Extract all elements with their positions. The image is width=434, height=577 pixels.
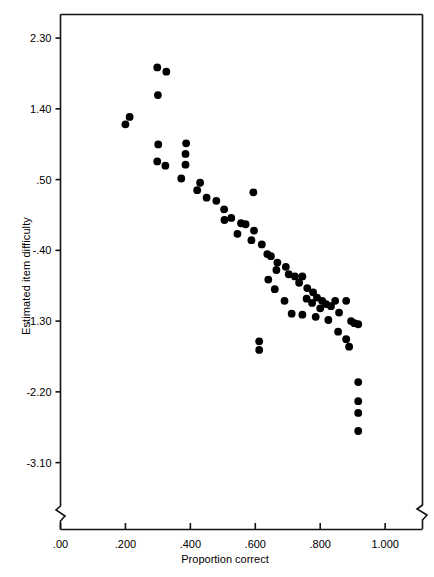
data-point: [354, 397, 362, 405]
x-tick-label: 1.000: [355, 538, 415, 550]
y-tick-label: .50: [0, 174, 52, 186]
data-point: [345, 343, 353, 351]
data-point: [161, 162, 169, 170]
data-point: [316, 304, 324, 312]
scatter-plot-figure: 2.301.40.50-.40-1.30-2.20-3.10 .00.200.4…: [0, 0, 434, 577]
data-points-group: [122, 64, 363, 435]
data-point: [267, 252, 275, 260]
data-point: [153, 64, 161, 72]
data-point: [342, 335, 350, 343]
x-axis-ticks: [61, 523, 386, 530]
data-point: [255, 346, 263, 354]
data-point: [273, 266, 281, 274]
data-point: [242, 220, 250, 228]
data-point: [203, 194, 211, 202]
data-point: [249, 188, 257, 196]
y-tick-label: 2.30: [0, 32, 52, 44]
data-point: [162, 68, 170, 76]
x-tick-label: .600: [225, 538, 285, 550]
data-point: [153, 158, 161, 166]
data-point: [255, 337, 263, 345]
data-point: [177, 175, 185, 183]
x-axis-break-right-icon: [417, 498, 427, 529]
data-point: [288, 310, 296, 318]
x-tick-label: .800: [290, 538, 350, 550]
x-tick-label: .400: [160, 538, 220, 550]
y-tick-label: -3.10: [0, 457, 52, 469]
data-point: [182, 161, 190, 169]
data-point: [282, 263, 290, 271]
plot-canvas: [0, 0, 434, 577]
data-point: [250, 227, 258, 235]
data-point: [154, 140, 162, 148]
data-point: [354, 320, 362, 328]
data-point: [258, 241, 266, 249]
data-point: [212, 197, 220, 205]
data-point: [331, 297, 339, 305]
data-point: [342, 297, 350, 305]
y-tick-label: 1.40: [0, 103, 52, 115]
x-tick-label: .200: [95, 538, 155, 550]
data-point: [354, 378, 362, 386]
x-axis-title: Proportion correct: [60, 553, 390, 565]
data-point: [221, 216, 229, 224]
data-point: [122, 120, 130, 128]
y-tick-label: -2.20: [0, 386, 52, 398]
data-point: [312, 313, 320, 321]
data-point: [154, 91, 162, 99]
y-axis-title: Estimated item difficulty: [20, 186, 32, 366]
x-tick-label: .00: [31, 538, 91, 550]
data-point: [273, 259, 281, 267]
data-point: [334, 328, 342, 336]
data-point: [324, 316, 332, 324]
data-point: [182, 150, 190, 158]
data-point: [281, 297, 289, 305]
data-point: [182, 139, 190, 147]
data-point: [234, 230, 242, 238]
data-point: [298, 311, 306, 319]
data-point: [354, 409, 362, 417]
data-point: [298, 272, 306, 280]
plot-frame: [61, 15, 423, 499]
data-point: [248, 236, 256, 244]
data-point: [271, 285, 279, 293]
data-point: [335, 309, 343, 317]
data-point: [126, 113, 134, 121]
data-point: [220, 205, 228, 213]
data-point: [291, 272, 299, 280]
data-point: [264, 276, 272, 284]
data-point: [193, 186, 201, 194]
data-point: [354, 427, 362, 435]
data-point: [196, 179, 204, 187]
data-point: [227, 214, 235, 222]
